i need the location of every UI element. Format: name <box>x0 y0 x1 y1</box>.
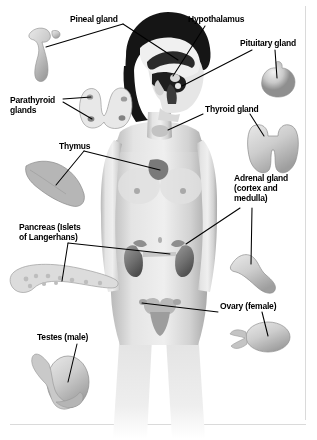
label-parathyroid-glands: Parathyroid glands <box>10 95 55 115</box>
in-body-thyroid <box>151 125 168 137</box>
endocrine-system-diagram: Pineal gland Hypothalamus Pituitary glan… <box>0 0 317 440</box>
ovary-illustration <box>230 322 290 352</box>
label-pancreas: Pancreas (Islets of Langerhans) <box>19 222 81 242</box>
label-testes-male: Testes (male) <box>37 332 88 342</box>
label-hypothalamus: Hypothalamus <box>188 14 244 24</box>
adrenal-illustration <box>230 255 275 294</box>
label-pineal-gland: Pineal gland <box>70 14 118 24</box>
pituitary-illustration <box>262 61 295 97</box>
label-thymus: Thymus <box>59 141 90 151</box>
thyroid-illustration <box>248 125 299 173</box>
label-adrenal-gland: Adrenal gland (cortex and medulla) <box>234 173 288 203</box>
label-thyroid-gland: Thyroid gland <box>205 104 259 114</box>
label-pituitary-gland: Pituitary gland <box>240 38 296 48</box>
head-with-brain-cross-section <box>124 12 211 122</box>
thymus-illustration <box>26 161 85 206</box>
label-ovary-female: Ovary (female) <box>220 301 276 311</box>
parathyroid-illustration <box>80 88 133 129</box>
pineal-illustration <box>29 28 60 81</box>
body-figure <box>101 12 217 438</box>
diagram-artwork <box>0 0 317 440</box>
testes-illustration <box>32 354 89 409</box>
leader-adrenal-to-illus <box>251 208 252 264</box>
